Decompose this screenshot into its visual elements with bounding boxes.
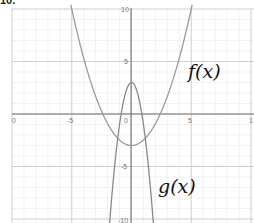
x-tick-label: -5 xyxy=(67,117,73,124)
x-tick-label: 0 xyxy=(12,117,16,124)
minor-grid xyxy=(12,9,254,223)
y-tick-label: -10 xyxy=(118,217,128,223)
y-tick-label: 5 xyxy=(124,58,128,65)
label-f: f(x) xyxy=(186,60,221,82)
label-g: g(x) xyxy=(158,175,196,197)
coordinate-plane: 0 -5 0 5 1 10 5 -5 -10 f(x) g(x) xyxy=(0,0,254,223)
y-tick-label: 10 xyxy=(121,6,129,13)
x-tick-label: 0 xyxy=(124,117,128,124)
y-tick-label: -5 xyxy=(121,163,127,170)
x-tick-label: 1 xyxy=(249,117,253,124)
major-grid xyxy=(12,9,254,223)
x-tick-label: 5 xyxy=(188,117,192,124)
